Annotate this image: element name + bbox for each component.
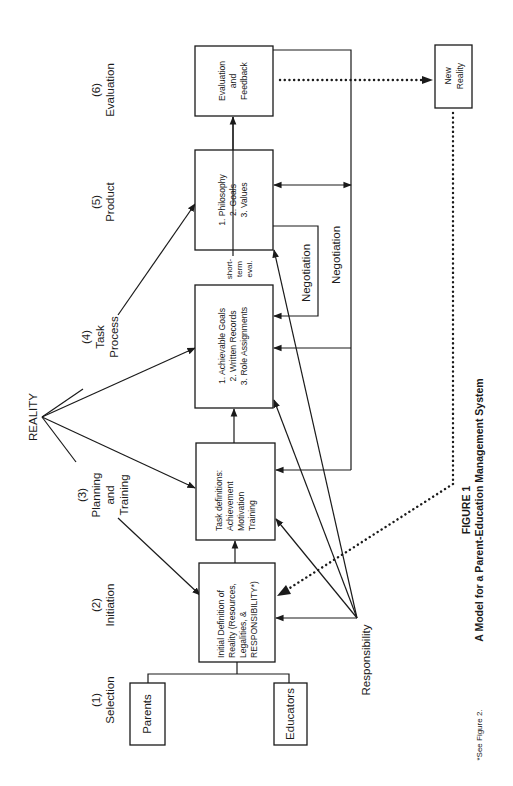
svg-text:Evaluation: Evaluation: [104, 63, 116, 117]
svg-text:Legalities, &: Legalities, &: [238, 611, 248, 658]
svg-text:(1): (1): [90, 693, 102, 707]
parent-education-model-diagram: (1) Selection (2) Initiation (3) Plannin…: [0, 0, 513, 786]
stage-label-evaluation: (6) Evaluation: [90, 63, 116, 117]
svg-text:2. Written Records: 2. Written Records: [228, 310, 238, 381]
svg-text:Initiation: Initiation: [104, 584, 116, 627]
educators-box: Educators: [274, 683, 307, 745]
task-definitions-box: Task definitions: Achievement Motivation…: [196, 443, 275, 540]
svg-text:*See Figure 2.: *See Figure 2.: [475, 709, 484, 760]
responsibility-label: Responsibility: [360, 624, 372, 695]
new-reality-box: New Reality: [435, 45, 472, 108]
svg-text:Task: Task: [94, 325, 106, 349]
figure-number: FIGURE 1: [460, 486, 472, 535]
stage-label-planning-training: (3) Planning and Training: [76, 473, 130, 518]
svg-text:1. Achievable Goals: 1. Achievable Goals: [217, 308, 227, 384]
stage-label-product: (5) Product: [90, 181, 116, 221]
task-process-box: 1. Achievable Goals 2. Written Records 3…: [195, 285, 273, 408]
stage-label-initiation: (2) Initiation: [90, 584, 116, 627]
arrow-to-initial-definition: [118, 518, 200, 595]
negotiation-inner-label: Negotiation: [300, 244, 312, 302]
parents-box: Parents: [130, 683, 165, 745]
product-box: 1. Philosophy 2. Goals 3. Values: [195, 150, 273, 250]
svg-text:Educators: Educators: [284, 688, 296, 740]
reality-ray-to-task-process-label: [42, 389, 83, 417]
figure-caption: FIGURE 1 A Model for a Parent-Education …: [460, 378, 485, 641]
svg-text:and: and: [104, 485, 116, 504]
svg-text:Evaluation: Evaluation: [217, 61, 227, 101]
dotted-to-initial-definition: [282, 484, 453, 593]
svg-text:(4): (4): [80, 330, 92, 344]
reality-label: REALITY: [27, 393, 39, 441]
evaluation-feedback-box: Evaluation and Feedback: [195, 46, 273, 116]
svg-text:Reality (Resources,: Reality (Resources,: [227, 583, 237, 658]
svg-text:Task definitions:: Task definitions:: [214, 470, 224, 531]
selection-connector: [148, 674, 289, 683]
svg-text:New: New: [443, 67, 453, 85]
svg-text:REALITY: REALITY: [27, 393, 39, 441]
arrow-reality-to-product: [118, 204, 195, 315]
dotted-arrowhead-new-reality: [422, 76, 433, 84]
initial-definition-box: Initial Definition of Reality (Resources…: [199, 563, 275, 662]
svg-text:eval.: eval.: [245, 261, 254, 278]
footnote: *See Figure 2.: [475, 709, 484, 760]
svg-text:1. Philosophy: 1. Philosophy: [217, 174, 227, 226]
svg-text:Feedback: Feedback: [239, 61, 249, 99]
svg-text:Product: Product: [104, 181, 116, 221]
svg-text:Motivation: Motivation: [236, 492, 246, 531]
arrow-responsibility-to-task-definitions: [276, 519, 357, 618]
svg-text:(2): (2): [90, 598, 102, 612]
svg-text:Initial Definition of: Initial Definition of: [216, 590, 226, 658]
svg-text:and: and: [228, 74, 238, 89]
reality-ray-to-planning-label: [42, 417, 76, 462]
svg-text:(6): (6): [90, 83, 102, 97]
short-term-eval-label: short- term eval.: [225, 258, 254, 279]
svg-text:RESPONSIBILITY*): RESPONSIBILITY*): [249, 581, 259, 658]
svg-text:Selection: Selection: [104, 676, 116, 723]
svg-text:(3): (3): [76, 488, 88, 502]
svg-text:term: term: [235, 261, 244, 277]
svg-text:Parents: Parents: [141, 694, 153, 734]
svg-text:Process: Process: [108, 316, 120, 358]
svg-text:Negotiation: Negotiation: [300, 244, 312, 302]
stage-label-task-process: (4) Task Process: [80, 316, 120, 358]
svg-text:Training: Training: [247, 500, 257, 531]
stage-label-selection: (1) Selection: [90, 676, 116, 723]
svg-text:Training: Training: [118, 474, 130, 515]
figure-title: A Model for a Parent-Education Managemen…: [473, 378, 485, 641]
svg-text:Responsibility: Responsibility: [360, 624, 372, 695]
svg-text:Achievement: Achievement: [225, 481, 235, 531]
svg-text:short-: short-: [225, 258, 234, 279]
svg-text:Planning: Planning: [90, 473, 102, 518]
svg-text:Negotiation: Negotiation: [330, 226, 342, 284]
dotted-arrowhead-initial: [277, 585, 291, 596]
negotiation-outer-label: Negotiation: [330, 226, 342, 284]
svg-text:3. Role Assignments: 3. Role Assignments: [239, 307, 249, 385]
svg-text:3. Values: 3. Values: [239, 182, 249, 217]
svg-text:Reality: Reality: [455, 62, 465, 89]
svg-text:(5): (5): [90, 195, 102, 209]
